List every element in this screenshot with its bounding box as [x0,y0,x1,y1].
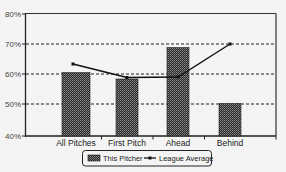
x-label-ahead: Ahead [166,138,191,148]
x-axis-labels: All Pitches First Pitch Ahead Behind [56,138,243,148]
legend-swatch-this-pitcher [88,155,100,161]
legend-label-this-pitcher: This Pitcher [103,154,143,163]
series-this-pitcher [62,48,241,137]
y-axis-labels: 80% 70% 60% 50% 40% [5,10,21,141]
legend-label-league-average: League Average [159,154,214,163]
marker-ahead [177,76,180,79]
legend-marker-league-average [149,157,152,160]
bar-behind [219,104,241,137]
marker-behind [229,43,232,46]
league-average-line [73,44,230,78]
y-label-80: 80% [5,10,21,19]
y-label-40: 40% [5,132,21,141]
x-label-behind: Behind [217,138,244,148]
y-label-70: 70% [5,40,21,49]
bar-ahead [167,48,189,137]
chart: 80% 70% 60% 50% 40% All Pitches First Pi… [0,0,286,172]
marker-all-pitches [72,63,75,66]
bar-all-pitches [62,73,90,137]
x-label-all-pitches: All Pitches [56,138,96,148]
y-label-60: 60% [5,70,21,79]
legend: This Pitcher League Average [83,151,214,167]
y-label-50: 50% [5,100,21,109]
x-label-first-pitch: First Pitch [108,138,146,148]
marker-first-pitch [126,76,129,79]
bar-first-pitch [116,79,138,136]
